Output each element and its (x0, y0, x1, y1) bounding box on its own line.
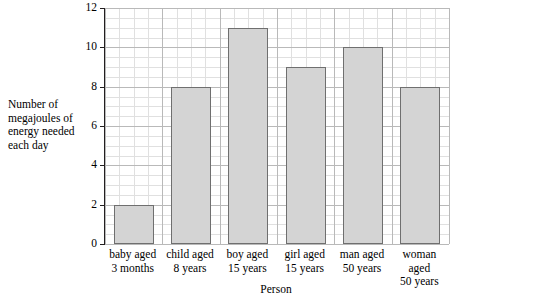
gridline-vertical-major (220, 8, 221, 244)
y-axis-title-line-1: Number of (8, 98, 93, 112)
gridline-horizontal-minor (105, 97, 449, 98)
bar-chart: Number of megajoules of energy needed ea… (0, 0, 560, 303)
x-axis-category-label-line-2: 3 months (104, 262, 161, 276)
x-axis-category-label-line-2: 15 years (276, 262, 333, 276)
bar (400, 87, 440, 244)
gridline-horizontal-major (105, 87, 449, 88)
gridline-horizontal-minor (105, 67, 449, 68)
x-axis-category-label: girl aged15 years (276, 248, 333, 275)
gridline-horizontal-minor (105, 38, 449, 39)
gridline-horizontal-minor (105, 195, 449, 196)
x-axis-category-label-line-1: child aged (161, 248, 218, 262)
gridline-horizontal-minor (105, 136, 449, 137)
bar (171, 87, 211, 244)
gridline-horizontal-minor (105, 116, 449, 117)
gridline-horizontal-minor (105, 185, 449, 186)
x-axis-category-label-line-2: 8 years (161, 262, 218, 276)
y-axis-tick-mark (100, 126, 105, 127)
gridline-horizontal-minor (105, 234, 449, 235)
x-axis-category-label-line-2: 50 years (333, 262, 390, 276)
x-axis-category-label-line-1: girl aged (276, 248, 333, 262)
x-axis-category-label: man aged50 years (333, 248, 390, 275)
minor-gridlines (105, 8, 449, 244)
x-axis-category-label-line-2: 15 years (219, 262, 276, 276)
gridline-horizontal-minor (105, 175, 449, 176)
x-axis-category-label-line-1: boy aged (219, 248, 276, 262)
gridline-vertical-major (334, 8, 335, 244)
gridline-vertical-major (105, 8, 106, 244)
y-axis-tick-mark (100, 47, 105, 48)
y-axis-tick-label: 8 (91, 81, 97, 93)
bar (343, 47, 383, 244)
y-axis-title: Number of megajoules of energy needed ea… (8, 98, 93, 152)
x-axis-category-label-line-1: woman aged (391, 248, 448, 275)
y-axis-tick-label: 10 (86, 42, 98, 54)
gridline-horizontal-minor (105, 28, 449, 29)
bar (228, 28, 268, 244)
bar (286, 67, 326, 244)
x-axis-category-label-line-1: baby aged (104, 248, 161, 262)
gridline-horizontal-major (105, 244, 449, 245)
plot-area: 024681012 (104, 8, 449, 245)
x-axis-category-label: child aged8 years (161, 248, 218, 275)
y-axis-tick-label: 0 (91, 238, 97, 250)
gridline-horizontal-major (105, 165, 449, 166)
y-axis-tick-label: 2 (91, 199, 97, 211)
y-axis-tick-mark (100, 8, 105, 9)
x-axis-category-labels: baby aged3 monthschild aged8 yearsboy ag… (104, 248, 448, 282)
gridline-horizontal-minor (105, 18, 449, 19)
gridline-horizontal-minor (105, 146, 449, 147)
gridline-horizontal-minor (105, 77, 449, 78)
major-gridlines (105, 8, 449, 244)
y-axis-tick-mark (100, 87, 105, 88)
y-axis-title-line-3: energy needed (8, 125, 93, 139)
y-axis-tick-mark (100, 165, 105, 166)
y-axis-tick-label: 4 (91, 160, 97, 172)
gridline-horizontal-major (105, 47, 449, 48)
gridline-horizontal-minor (105, 57, 449, 58)
y-axis-title-line-4: each day (8, 139, 93, 153)
gridline-vertical-major (162, 8, 163, 244)
gridline-horizontal-major (105, 205, 449, 206)
gridline-horizontal-major (105, 126, 449, 127)
gridline-vertical-major (449, 8, 450, 244)
y-axis-tick-label: 12 (86, 2, 98, 14)
x-axis-category-label: baby aged3 months (104, 248, 161, 275)
y-axis-title-line-2: megajoules of (8, 112, 93, 126)
gridline-horizontal-minor (105, 156, 449, 157)
gridline-horizontal-minor (105, 215, 449, 216)
gridline-horizontal-minor (105, 106, 449, 107)
gridline-vertical-major (277, 8, 278, 244)
gridline-vertical-major (392, 8, 393, 244)
x-axis-category-label: boy aged15 years (219, 248, 276, 275)
gridline-horizontal-minor (105, 224, 449, 225)
y-axis-tick-mark (100, 205, 105, 206)
y-axis-tick-mark (100, 244, 105, 245)
gridline-horizontal-major (105, 8, 449, 9)
bar (114, 205, 154, 244)
x-axis-category-label-line-1: man aged (333, 248, 390, 262)
x-axis-title: Person (104, 283, 448, 296)
y-axis-tick-label: 6 (91, 120, 97, 132)
